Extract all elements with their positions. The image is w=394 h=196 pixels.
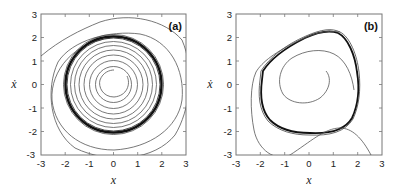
svg-text:0: 0 — [111, 158, 116, 169]
plot-frame-a — [41, 14, 186, 155]
xtick-labels-b: -3 -2 -1 0 1 2 3 — [232, 158, 385, 169]
ytick-labels-b: 3 2 1 0 -1 -2 -3 — [224, 9, 232, 161]
svg-text:-3: -3 — [37, 158, 45, 169]
ylabel-a: ẋ — [10, 77, 17, 91]
ytick-labels-a: 3 2 1 0 -1 -2 -3 — [27, 9, 37, 161]
svg-text:-2: -2 — [224, 126, 232, 137]
svg-text:-2: -2 — [29, 126, 37, 137]
svg-text:-3: -3 — [224, 149, 232, 160]
figure: -3 -2 -1 0 1 2 3 3 2 1 0 -1 -2 -3 x ẋ (a… — [0, 0, 394, 196]
svg-text:2: 2 — [159, 158, 164, 169]
svg-text:-1: -1 — [224, 103, 232, 114]
panel-b: -3 -2 -1 0 1 2 3 3 2 1 0 -1 -2 -3 x ẋ (b… — [206, 9, 384, 188]
svg-text:-1: -1 — [29, 103, 37, 114]
svg-text:0: 0 — [306, 158, 311, 169]
svg-text:1: 1 — [331, 158, 336, 169]
svg-text:-3: -3 — [232, 158, 240, 169]
svg-text:1: 1 — [32, 56, 37, 67]
svg-text:2: 2 — [227, 32, 232, 43]
panel-a: -3 -2 -1 0 1 2 3 3 2 1 0 -1 -2 -3 x ẋ (a… — [10, 9, 189, 188]
svg-text:3: 3 — [183, 158, 188, 169]
xlabel-a: x — [110, 173, 117, 187]
svg-text:1: 1 — [135, 158, 140, 169]
svg-text:3: 3 — [227, 9, 232, 20]
svg-text:0: 0 — [32, 79, 37, 90]
trajectories-b — [251, 30, 371, 157]
ylabel-b: ẋ — [206, 77, 213, 91]
svg-text:-2: -2 — [61, 158, 69, 169]
svg-text:-1: -1 — [280, 158, 288, 169]
svg-text:3: 3 — [32, 9, 37, 20]
panel-label-a: (a) — [169, 20, 183, 32]
svg-text:0: 0 — [227, 79, 232, 90]
svg-text:-3: -3 — [27, 149, 35, 160]
svg-text:2: 2 — [355, 158, 360, 169]
svg-text:3: 3 — [379, 158, 384, 169]
svg-text:-2: -2 — [256, 158, 264, 169]
ticks-a — [41, 14, 186, 155]
xtick-labels-a: -3 -2 -1 0 1 2 3 — [37, 158, 189, 169]
trajectories-a — [41, 18, 189, 158]
svg-text:1: 1 — [227, 56, 232, 67]
svg-text:-1: -1 — [85, 158, 93, 169]
xlabel-b: x — [305, 173, 312, 187]
svg-text:2: 2 — [32, 32, 37, 43]
panel-label-b: (b) — [364, 20, 378, 32]
